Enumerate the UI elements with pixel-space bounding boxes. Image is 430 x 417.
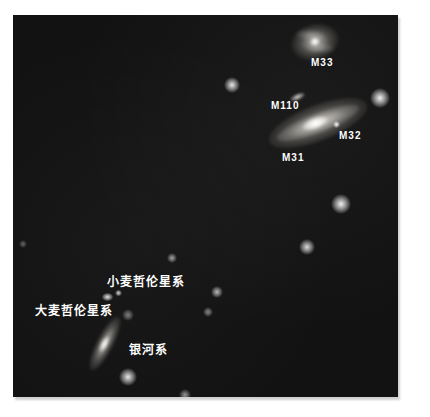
local-group-space-photo: M33 M110 M32 M31 小麦哲伦星系 大麦哲伦星系 银河系 [13,15,398,397]
label-m32: M32 [339,130,361,141]
dwarf-galaxy-dot [167,253,177,263]
dwarf-galaxy-dot [179,389,191,397]
dwarf-galaxy-dot [119,368,137,386]
label-large-magellanic-cloud: 大麦哲伦星系 [35,301,113,318]
galaxy-m32 [333,121,340,128]
dwarf-galaxy-dot [224,77,240,93]
dwarf-galaxy-dot [299,239,315,255]
small-magellanic-cloud-blob [115,290,122,296]
dwarf-galaxy-dot [370,88,390,108]
dwarf-galaxy-dot [19,240,27,248]
galaxy-milky-way-core [96,334,111,354]
dwarf-galaxy-dot [122,309,134,321]
dwarf-galaxy-dot [331,194,351,214]
label-m110: M110 [271,100,299,111]
label-milky-way: 银河系 [129,340,168,357]
large-magellanic-cloud-blob [102,293,113,301]
dwarf-galaxy-dot [203,307,213,317]
dwarf-galaxy-dot [211,286,223,298]
label-small-magellanic-cloud: 小麦哲伦星系 [107,272,185,289]
label-m31: M31 [282,152,304,163]
galaxy-m31-andromeda [263,88,373,159]
label-m33: M33 [311,57,333,68]
galaxy-milky-way [84,313,126,374]
